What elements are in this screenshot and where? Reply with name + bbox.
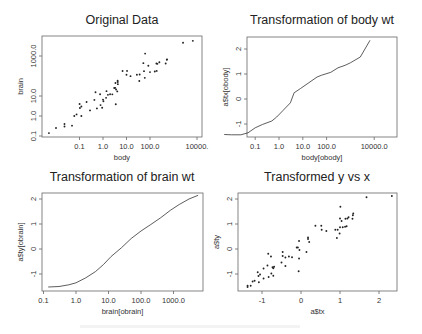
data-point <box>117 81 119 83</box>
data-point <box>80 106 82 108</box>
data-point <box>130 75 132 77</box>
data-point <box>105 97 107 99</box>
panel-transformed-y-vs-x: Transformed y vs x -1012a$tx-1012a$ty <box>212 170 397 316</box>
x-axis-label: body[obody] <box>302 153 343 162</box>
data-point <box>114 82 116 84</box>
data-point <box>79 107 81 109</box>
data-point <box>342 226 344 228</box>
data-point <box>154 70 156 72</box>
data-point <box>101 107 103 109</box>
data-point <box>325 230 327 232</box>
data-point <box>126 70 128 72</box>
data-point <box>144 77 146 79</box>
data-point <box>288 256 290 258</box>
x-tick-label: 1.0 <box>274 142 284 151</box>
y-tick-label: 1 <box>29 222 38 226</box>
data-point <box>320 225 322 227</box>
data-point <box>263 268 265 270</box>
data-point <box>346 218 348 220</box>
data-point <box>307 238 309 240</box>
data-point <box>268 276 270 278</box>
y-axis-label: a$ty <box>212 235 221 249</box>
data-point <box>102 100 104 102</box>
data-point <box>339 233 341 235</box>
data-point <box>156 70 158 72</box>
data-point <box>93 99 95 101</box>
data-point <box>64 123 66 125</box>
data-point <box>257 271 259 273</box>
data-point <box>272 266 274 268</box>
data-point <box>284 265 286 267</box>
data-point <box>99 93 101 95</box>
data-point <box>156 63 158 65</box>
data-point <box>259 274 261 276</box>
data-point <box>142 62 144 64</box>
y-tick-label: 1 <box>225 222 234 226</box>
data-point <box>334 229 336 231</box>
data-point <box>352 218 354 220</box>
x-axis: 0.11.010.0100.010000.0 <box>250 137 388 151</box>
data-point <box>341 220 343 222</box>
data-point <box>48 132 50 134</box>
data-point <box>308 241 310 243</box>
x-tick-label: 100.0 <box>132 296 151 305</box>
x-axis: 0.11.010.0100.01000.0 <box>38 291 185 305</box>
data-point <box>102 99 104 101</box>
y-tick-label: 0.1 <box>29 131 38 141</box>
data-point <box>106 90 108 92</box>
data-point <box>282 255 284 257</box>
y-tick-label: -1 <box>29 271 38 278</box>
y-tick-label: 2 <box>234 47 243 51</box>
data-point <box>143 70 145 72</box>
data-point <box>192 40 194 42</box>
y-tick-label: 10.0 <box>29 89 38 104</box>
y-tick-label: -1 <box>225 271 234 278</box>
x-tick-label: 1000.0 <box>162 296 185 305</box>
plot-frame <box>238 193 397 291</box>
data-point <box>345 218 347 220</box>
data-point <box>114 87 116 89</box>
y-tick-label: -1 <box>234 121 243 128</box>
data-point <box>116 90 118 92</box>
data-point <box>272 275 274 277</box>
y-axis-label: a$ty[obrain] <box>16 222 25 261</box>
data-point <box>71 125 73 127</box>
data-point <box>165 63 167 65</box>
data-point <box>336 237 338 239</box>
data-point <box>296 247 298 249</box>
data-point <box>158 61 160 63</box>
x-axis-label: a$tx <box>310 307 324 316</box>
data-point <box>282 251 284 253</box>
panel-title: Transformation of brain wt <box>50 170 195 184</box>
panel-original-data: Original Data 0.11.010.0100.010000.body0… <box>16 13 208 162</box>
data-point <box>117 83 119 85</box>
data-point <box>111 93 113 95</box>
x-tick-label: 10.0 <box>295 142 310 151</box>
data-point <box>339 226 341 228</box>
panel-title: Original Data <box>86 13 159 27</box>
data-point <box>89 109 91 111</box>
transformation-curve <box>48 195 198 287</box>
y-tick-label: 1 <box>234 72 243 76</box>
data-point <box>79 103 81 105</box>
y-tick-label: 0 <box>234 97 243 101</box>
data-point <box>314 225 316 227</box>
data-point <box>321 229 323 231</box>
data-point <box>73 115 75 117</box>
data-point <box>96 107 98 109</box>
data-point <box>80 115 82 117</box>
y-axis: -1012 <box>234 47 247 127</box>
data-point <box>291 256 293 258</box>
y-tick-label: 2 <box>225 197 234 201</box>
data-point <box>258 281 260 283</box>
x-tick-label: 10000. <box>186 142 209 151</box>
x-tick-label: 0.1 <box>250 142 260 151</box>
x-tick-label: 100.0 <box>317 142 336 151</box>
x-tick-label: 10.0 <box>119 142 134 151</box>
data-point <box>115 89 117 91</box>
scatter-points <box>48 40 194 134</box>
y-axis-label: a$tx[obody] <box>221 68 230 107</box>
panel-transformation-body: Transformation of body wt 0.11.010.0100.… <box>221 13 397 162</box>
figure: Original Data 0.11.010.0100.010000.body0… <box>0 0 422 334</box>
panel-title: Transformed y vs x <box>264 170 371 184</box>
